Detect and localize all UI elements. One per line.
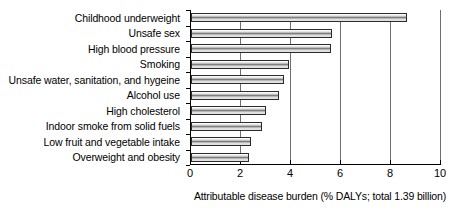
bars-layer bbox=[191, 10, 440, 165]
bar-row bbox=[191, 72, 440, 88]
bar-chart: Childhood underweight Unsafe sex High bl… bbox=[0, 0, 454, 214]
bar-row bbox=[191, 10, 440, 26]
bar-row bbox=[191, 57, 440, 73]
bar bbox=[191, 137, 251, 146]
x-axis-tick-label: 6 bbox=[337, 168, 343, 179]
category-label: Alcohol use bbox=[0, 88, 186, 104]
plot-area bbox=[190, 10, 440, 165]
category-axis-labels: Childhood underweight Unsafe sex High bl… bbox=[0, 10, 186, 165]
bar-row bbox=[191, 119, 440, 135]
category-label: Childhood underweight bbox=[0, 10, 186, 26]
y-axis-tick bbox=[186, 165, 190, 166]
bar bbox=[191, 13, 407, 22]
bar-row bbox=[191, 134, 440, 150]
bar bbox=[191, 29, 332, 38]
category-label: High cholesterol bbox=[0, 103, 186, 119]
x-axis-tick-label: 10 bbox=[434, 168, 446, 179]
bar-row bbox=[191, 26, 440, 42]
category-label: Overweight and obesity bbox=[0, 150, 186, 166]
y-axis-tick bbox=[186, 57, 190, 58]
category-label: Unsafe water, sanitation, and hygeine bbox=[0, 72, 186, 88]
bar bbox=[191, 60, 289, 69]
y-axis-tick bbox=[186, 103, 190, 104]
bar bbox=[191, 153, 249, 162]
y-axis-tick bbox=[186, 150, 190, 151]
bar-row bbox=[191, 88, 440, 104]
category-label: Low fruit and vegetable intake bbox=[0, 134, 186, 150]
bar bbox=[191, 122, 262, 131]
category-label: High blood pressure bbox=[0, 41, 186, 57]
bar bbox=[191, 106, 266, 115]
y-axis-tick bbox=[186, 26, 190, 27]
category-label: Smoking bbox=[0, 57, 186, 73]
bar bbox=[191, 91, 279, 100]
category-label: Unsafe sex bbox=[0, 26, 186, 42]
y-axis-tick bbox=[186, 72, 190, 73]
x-axis-tick-label: 2 bbox=[237, 168, 243, 179]
x-axis-tick bbox=[440, 160, 441, 165]
x-axis-tick-labels: 0246810 bbox=[190, 168, 440, 182]
y-axis-tick bbox=[186, 88, 190, 89]
x-axis-title: Attributable disease burden (% DALYs; to… bbox=[186, 191, 454, 202]
bar bbox=[191, 44, 331, 53]
bar-row bbox=[191, 103, 440, 119]
y-axis-tick bbox=[186, 10, 190, 11]
gridline bbox=[440, 10, 441, 165]
bar-row bbox=[191, 150, 440, 166]
bar-row bbox=[191, 41, 440, 57]
x-axis-tick-label: 4 bbox=[287, 168, 293, 179]
bar bbox=[191, 75, 284, 84]
y-axis-tick bbox=[186, 119, 190, 120]
y-axis-tick bbox=[186, 41, 190, 42]
x-axis-tick-label: 8 bbox=[387, 168, 393, 179]
x-axis-tick-label: 0 bbox=[187, 168, 193, 179]
category-label: Indoor smoke from solid fuels bbox=[0, 119, 186, 135]
y-axis-tick bbox=[186, 134, 190, 135]
